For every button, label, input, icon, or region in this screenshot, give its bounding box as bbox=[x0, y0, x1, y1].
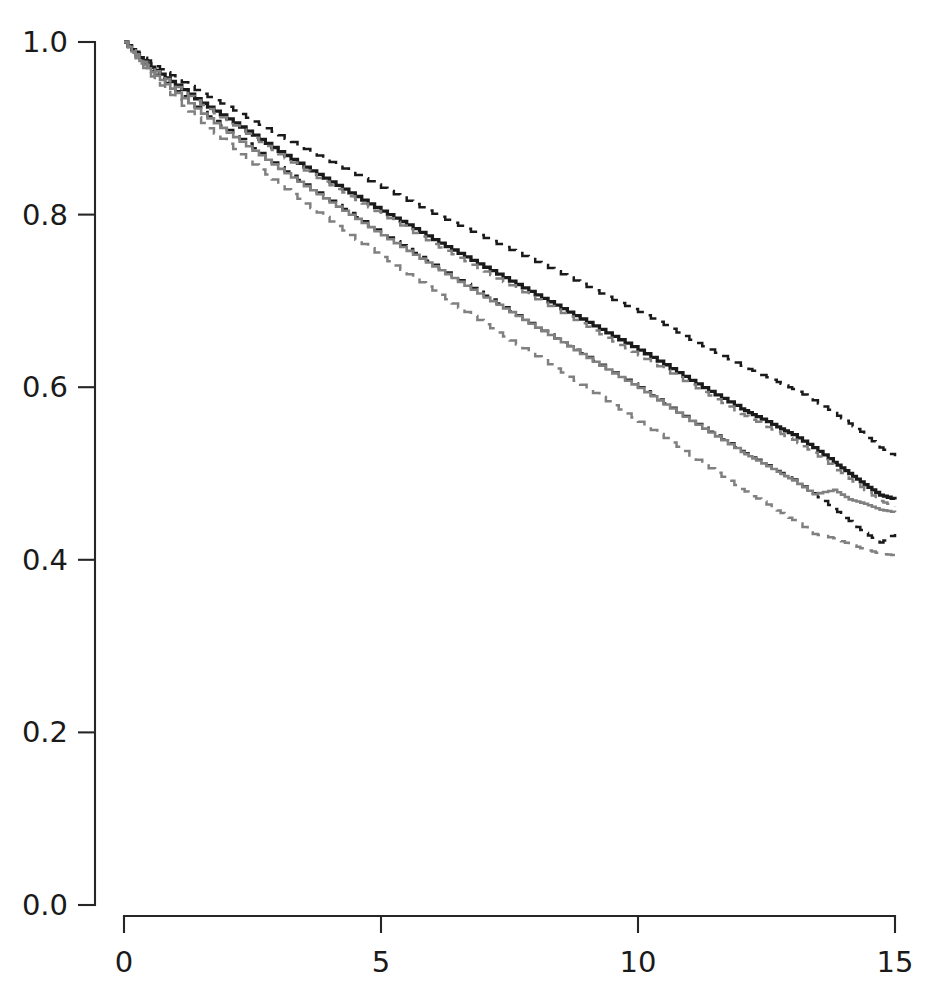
y-axis-tick-label: 0.0 bbox=[22, 888, 68, 922]
x-axis bbox=[124, 916, 895, 933]
y-axis-tick-labels: 0.00.20.40.60.81.0 bbox=[22, 25, 68, 922]
y-axis-tick-label: 0.8 bbox=[22, 198, 68, 232]
y-axis-tick-label: 0.6 bbox=[22, 370, 68, 404]
series-group-1-lower-ci bbox=[124, 42, 895, 543]
y-axis bbox=[78, 42, 95, 905]
x-axis-tick-label: 10 bbox=[620, 945, 657, 979]
survival-plot-canvas: 0.00.20.40.60.81.0 051015 bbox=[0, 0, 945, 986]
series-group-1-upper-ci bbox=[124, 42, 895, 456]
x-axis-tick-label: 15 bbox=[877, 945, 914, 979]
x-axis-tick-labels: 051015 bbox=[115, 945, 914, 979]
series-group-2-upper-ci bbox=[124, 42, 895, 506]
survival-plot-figure: 0.00.20.40.60.81.0 051015 bbox=[0, 0, 945, 986]
y-axis-tick-label: 1.0 bbox=[22, 25, 68, 59]
x-axis-tick-label: 0 bbox=[115, 945, 133, 979]
curve-series-group bbox=[124, 42, 895, 555]
x-axis-tick-label: 5 bbox=[372, 945, 390, 979]
series-group-2-lower-ci bbox=[124, 42, 895, 555]
series-group-1-estimate bbox=[124, 42, 895, 499]
y-axis-tick-label: 0.2 bbox=[22, 715, 68, 749]
y-axis-tick-label: 0.4 bbox=[22, 543, 68, 577]
